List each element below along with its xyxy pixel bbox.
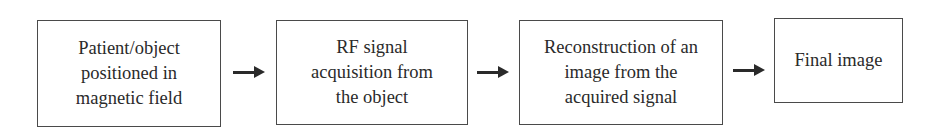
step-rf-acquisition-box: RF signal acquisition from the object [276,20,468,125]
step-reconstruction-box: Reconstruction of an image from the acqu… [519,20,723,125]
step-label: RF signal acquisition from the object [311,35,433,110]
arrow-right-icon [233,66,265,78]
step-patient-in-field-box: Patient/object positioned in magnetic fi… [37,20,221,127]
step-label: Final image [795,48,883,73]
arrow-right-icon [733,64,765,76]
step-final-image-box: Final image [774,18,903,103]
step-label: Patient/object positioned in magnetic fi… [76,36,182,111]
arrow-right-icon [477,66,509,78]
step-label: Reconstruction of an image from the acqu… [544,35,698,110]
